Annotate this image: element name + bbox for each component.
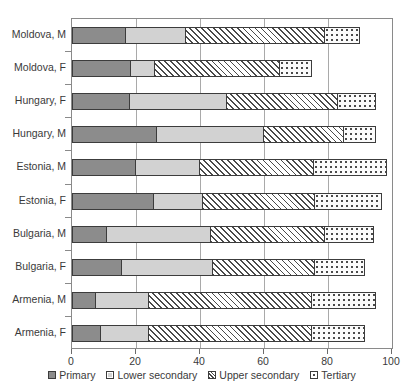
y-axis-label: Moldova, M bbox=[0, 28, 66, 40]
stacked-bar[interactable] bbox=[72, 93, 376, 110]
bar-segment-tertiary[interactable] bbox=[311, 325, 365, 342]
bar-segment-upper-secondary[interactable] bbox=[202, 193, 315, 210]
legend-item-lower-secondary[interactable]: Lower secondary bbox=[106, 369, 197, 381]
legend-swatch-icon bbox=[48, 371, 56, 379]
y-axis-tick bbox=[65, 117, 71, 118]
bar-segment-upper-secondary[interactable] bbox=[212, 259, 315, 276]
y-axis-tick bbox=[65, 184, 71, 185]
x-axis-tick-label: 0 bbox=[51, 355, 91, 367]
x-axis-tick bbox=[199, 349, 200, 354]
y-axis-label: Bulgaria, F bbox=[0, 260, 66, 272]
bar-segment-primary[interactable] bbox=[72, 292, 96, 309]
stacked-bar[interactable] bbox=[72, 60, 312, 77]
bar-segment-lower-secondary[interactable] bbox=[100, 325, 149, 342]
bar-segment-lower-secondary[interactable] bbox=[135, 159, 200, 176]
bar-row bbox=[72, 85, 392, 118]
bar-segment-tertiary[interactable] bbox=[311, 292, 376, 309]
y-axis-tick bbox=[65, 283, 71, 284]
y-axis-label: Hungary, F bbox=[0, 94, 66, 106]
bar-segment-lower-secondary[interactable] bbox=[130, 60, 155, 77]
bar-segment-tertiary[interactable] bbox=[313, 159, 388, 176]
bar-segment-lower-secondary[interactable] bbox=[125, 27, 185, 44]
bar-segment-upper-secondary[interactable] bbox=[199, 159, 314, 176]
y-axis-tick bbox=[65, 51, 71, 52]
x-axis-tick bbox=[391, 349, 392, 354]
legend-swatch-icon bbox=[310, 371, 318, 379]
bar-segment-lower-secondary[interactable] bbox=[106, 226, 211, 243]
bar-segment-tertiary[interactable] bbox=[324, 226, 375, 243]
bar-segment-lower-secondary[interactable] bbox=[121, 259, 213, 276]
bar-segment-upper-secondary[interactable] bbox=[210, 226, 325, 243]
stacked-bar[interactable] bbox=[72, 292, 376, 309]
stacked-bar-chart: Moldova, MMoldova, FHungary, FHungary, M… bbox=[0, 0, 404, 389]
stacked-bar[interactable] bbox=[72, 126, 376, 143]
x-axis-tick-label: 100 bbox=[371, 355, 404, 367]
bar-row bbox=[72, 52, 392, 85]
legend-swatch-icon bbox=[208, 371, 216, 379]
bar-segment-primary[interactable] bbox=[72, 159, 136, 176]
bar-segment-lower-secondary[interactable] bbox=[129, 93, 228, 110]
legend-item-primary[interactable]: Primary bbox=[48, 369, 95, 381]
x-axis-tick bbox=[135, 349, 136, 354]
x-axis-tick-label: 20 bbox=[115, 355, 155, 367]
y-axis-label: Armenia, M bbox=[0, 293, 66, 305]
legend-label: Lower secondary bbox=[117, 369, 197, 381]
y-axis-tick bbox=[65, 150, 71, 151]
x-axis-tick-label: 60 bbox=[243, 355, 283, 367]
stacked-bar[interactable] bbox=[72, 259, 365, 276]
bar-segment-primary[interactable] bbox=[72, 325, 101, 342]
legend-item-tertiary[interactable]: Tertiary bbox=[310, 369, 355, 381]
x-axis-tick bbox=[263, 349, 264, 354]
y-axis-label: Moldova, F bbox=[0, 61, 66, 73]
legend-swatch-icon bbox=[106, 371, 114, 379]
bar-row bbox=[72, 118, 392, 151]
bar-segment-primary[interactable] bbox=[72, 193, 154, 210]
legend-item-upper-secondary[interactable]: Upper secondary bbox=[208, 369, 299, 381]
bar-row bbox=[72, 151, 392, 184]
bar-segment-primary[interactable] bbox=[72, 60, 131, 77]
bar-segment-upper-secondary[interactable] bbox=[154, 60, 280, 77]
bar-segment-tertiary[interactable] bbox=[314, 193, 382, 210]
stacked-bar[interactable] bbox=[72, 193, 382, 210]
bar-segment-lower-secondary[interactable] bbox=[95, 292, 149, 309]
bar-segment-tertiary[interactable] bbox=[279, 60, 312, 77]
y-axis-label: Estonia, F bbox=[0, 194, 66, 206]
bar-segment-lower-secondary[interactable] bbox=[156, 126, 264, 143]
stacked-bar[interactable] bbox=[72, 325, 365, 342]
bar-segment-primary[interactable] bbox=[72, 259, 122, 276]
bar-segment-primary[interactable] bbox=[72, 126, 157, 143]
bar-row bbox=[72, 218, 392, 251]
y-axis-label: Bulgaria, M bbox=[0, 227, 66, 239]
stacked-bar[interactable] bbox=[72, 226, 374, 243]
stacked-bar[interactable] bbox=[72, 159, 387, 176]
bar-segment-tertiary[interactable] bbox=[314, 259, 365, 276]
x-axis-tick-label: 40 bbox=[179, 355, 219, 367]
legend-label: Upper secondary bbox=[219, 369, 299, 381]
bar-segment-tertiary[interactable] bbox=[324, 27, 360, 44]
x-axis-tick bbox=[71, 349, 72, 354]
bar-segment-upper-secondary[interactable] bbox=[226, 93, 337, 110]
bar-segment-primary[interactable] bbox=[72, 27, 126, 44]
y-axis-tick bbox=[65, 250, 71, 251]
y-axis-tick bbox=[65, 316, 71, 317]
legend-label: Primary bbox=[59, 369, 95, 381]
bar-segment-tertiary[interactable] bbox=[343, 126, 376, 143]
bar-segment-primary[interactable] bbox=[72, 226, 107, 243]
bar-segment-upper-secondary[interactable] bbox=[148, 292, 312, 309]
y-axis-label: Hungary, M bbox=[0, 127, 66, 139]
bar-row bbox=[72, 284, 392, 317]
bar-segment-upper-secondary[interactable] bbox=[263, 126, 344, 143]
bar-segment-lower-secondary[interactable] bbox=[153, 193, 204, 210]
bar-segment-tertiary[interactable] bbox=[337, 93, 376, 110]
bar-row bbox=[72, 185, 392, 218]
y-axis-tick bbox=[65, 84, 71, 85]
chart-legend: PrimaryLower secondaryUpper secondaryTer… bbox=[0, 369, 404, 381]
bar-segment-primary[interactable] bbox=[72, 93, 130, 110]
x-axis-tick-label: 80 bbox=[307, 355, 347, 367]
bar-row bbox=[72, 317, 392, 350]
y-axis-label: Estonia, M bbox=[0, 160, 66, 172]
bar-segment-upper-secondary[interactable] bbox=[185, 27, 325, 44]
bar-row bbox=[72, 19, 392, 52]
bar-segment-upper-secondary[interactable] bbox=[148, 325, 312, 342]
stacked-bar[interactable] bbox=[72, 27, 360, 44]
